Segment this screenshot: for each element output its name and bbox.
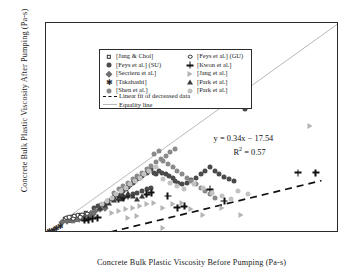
data-point-series-9 xyxy=(229,197,234,202)
data-point-series-6 xyxy=(221,198,228,205)
data-point-series-4 xyxy=(172,147,177,152)
x-tick xyxy=(280,231,281,232)
data-point-series-9 xyxy=(104,199,109,204)
x-minor-tick xyxy=(134,231,135,232)
legend-marker-triangle-up xyxy=(184,78,197,87)
legend-item-linear-fit[interactable]: Linear fit of decreased data xyxy=(103,92,251,101)
triangle-right-marker xyxy=(188,71,193,77)
data-point-series-8 xyxy=(139,194,145,199)
legend-box: [Jang & Choi][Feys et al.] (GU)[Feys et … xyxy=(99,49,252,109)
data-point-series-9 xyxy=(182,187,187,192)
data-point-series-9 xyxy=(100,202,105,207)
data-point-series-7 xyxy=(137,203,142,209)
star-marker: ✱ xyxy=(106,79,113,86)
x-axis-title: Concrete Bulk Plastic Viscosity Before P… xyxy=(45,258,338,267)
data-point-series-9 xyxy=(175,183,180,188)
data-point-series-7 xyxy=(130,205,135,211)
legend-label: [Feys et al.] (GU) xyxy=(197,52,255,61)
data-point-series-7 xyxy=(109,210,114,216)
fit-equation-label: y = 0.34x − 17.54 xyxy=(214,134,274,143)
y-tick xyxy=(45,107,46,108)
data-point-series-6 xyxy=(164,193,171,200)
legend-label-linear-fit: Linear fit of decreased data xyxy=(119,92,190,101)
data-point-series-7 xyxy=(307,123,312,129)
data-point-series-1 xyxy=(198,172,203,177)
r2-suffix: = 0.57 xyxy=(242,147,266,156)
data-point-series-9 xyxy=(114,192,119,197)
data-point-series-9 xyxy=(154,165,159,170)
legend-entries: [Jang & Choi][Feys et al.] (GU)[Feys et … xyxy=(103,52,248,95)
data-point-series-7 xyxy=(201,212,206,218)
data-point-series-1 xyxy=(203,168,208,173)
x-tick xyxy=(222,231,223,232)
fit-r2-label: R2 = 0.57 xyxy=(234,146,266,157)
data-point-series-9 xyxy=(236,189,241,194)
y-minor-tick xyxy=(45,86,46,87)
y-tick xyxy=(45,65,46,66)
x-tick xyxy=(163,231,164,232)
x-tick xyxy=(105,231,106,232)
data-point-series-9 xyxy=(219,194,224,199)
data-point-series-7 xyxy=(151,200,156,206)
legend-marker-triangle-right xyxy=(184,69,197,78)
data-point-series-4 xyxy=(212,195,217,200)
data-point-series-4 xyxy=(168,150,173,155)
data-point-series-7 xyxy=(123,206,128,212)
legend-marker-circle-open xyxy=(184,52,197,61)
y-minor-tick xyxy=(45,212,46,213)
x-minor-tick xyxy=(310,231,311,232)
data-point-series-6 xyxy=(148,189,155,196)
legend-label-equality-line: Equality line xyxy=(119,101,152,110)
legend-label: [Secrieru et al.] xyxy=(116,69,184,78)
data-point-series-6 xyxy=(94,214,101,221)
data-point-series-3: ✱ xyxy=(57,223,64,230)
circle-open-marker xyxy=(188,54,193,59)
data-point-series-5 xyxy=(71,216,76,221)
circle-dark-marker xyxy=(107,63,112,68)
legend-label: [Jang et al.] xyxy=(197,69,255,78)
y-tick xyxy=(45,191,46,192)
legend-lines: Linear fit of decreased data Equality li… xyxy=(103,92,251,109)
data-point-series-9 xyxy=(128,182,133,187)
triangle-up-marker xyxy=(187,80,193,85)
legend-label: [Jang & Choi] xyxy=(116,52,184,61)
legend-marker-diamond xyxy=(103,69,116,78)
data-point-series-9 xyxy=(123,185,128,190)
legend-marker-plus xyxy=(184,61,197,70)
x-minor-tick xyxy=(193,231,194,232)
legend-label: [Kwon et al.] xyxy=(197,61,255,70)
data-point-series-9 xyxy=(168,180,173,185)
data-point-series-9 xyxy=(142,172,147,177)
y-minor-tick xyxy=(45,128,46,129)
data-point-series-9 xyxy=(201,185,206,190)
data-point-series-9 xyxy=(137,175,142,180)
data-point-series-6 xyxy=(312,169,319,176)
diamond-marker xyxy=(106,71,112,77)
data-point-series-9 xyxy=(210,190,215,195)
y-minor-tick xyxy=(45,170,46,171)
solid-line-icon xyxy=(103,104,117,105)
data-point-series-7 xyxy=(126,215,131,221)
legend-item-equality-line[interactable]: Equality line xyxy=(103,101,251,110)
data-point-series-7 xyxy=(189,206,194,212)
legend-marker-square-open xyxy=(103,52,116,61)
data-point-series-7 xyxy=(135,213,140,219)
y-minor-tick xyxy=(45,44,46,45)
data-point-series-9 xyxy=(147,168,152,173)
data-point-series-9 xyxy=(133,178,138,183)
data-point-series-7 xyxy=(219,205,224,211)
legend-label: [Feys et al.] (SU) xyxy=(116,61,184,70)
plus-marker xyxy=(187,62,194,69)
chart-figure: Concrete Bulk Plastic Viscosity After Pu… xyxy=(0,0,354,278)
legend-label: [Takahashi] xyxy=(116,78,184,87)
dashed-line-icon xyxy=(103,96,117,97)
data-point-series-7 xyxy=(116,208,121,214)
y-tick xyxy=(45,149,46,150)
data-point-series-4 xyxy=(156,148,161,153)
data-point-series-9 xyxy=(119,189,124,194)
x-minor-tick xyxy=(75,231,76,232)
data-point-series-9 xyxy=(191,182,196,187)
plot-area: ✱✱✱✱ y = 0.34x − 17.54 R2 = 0.57 [Jang &… xyxy=(45,22,338,232)
data-point-series-7 xyxy=(238,212,243,218)
legend-marker-star: ✱ xyxy=(103,78,116,87)
